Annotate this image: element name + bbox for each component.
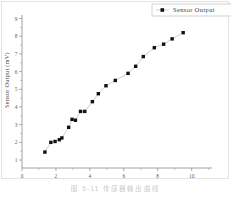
data-point-marker	[91, 100, 94, 103]
data-point-marker	[70, 118, 73, 121]
data-point-marker	[153, 46, 156, 49]
data-point-marker	[60, 136, 63, 139]
data-point-marker	[74, 119, 77, 122]
y-tick-label: 5	[15, 86, 18, 92]
data-point-marker	[79, 110, 82, 113]
data-point-marker	[134, 65, 137, 68]
x-tick-label: 8	[156, 173, 159, 179]
data-point-marker	[104, 84, 107, 87]
y-tick-label: 9	[15, 16, 18, 22]
y-tick-label: 4	[15, 104, 18, 110]
data-point-marker	[114, 79, 117, 82]
x-tick-label: 0	[21, 173, 24, 179]
plot-area: 0246810123456789Sensor Output (mV)Sensor…	[0, 0, 231, 182]
data-point-marker	[67, 126, 70, 129]
y-axis-title: Sensor Output (mV)	[3, 52, 11, 108]
data-point-marker	[97, 92, 100, 95]
data-point-marker	[181, 31, 184, 34]
x-tick-label: 2	[55, 173, 58, 179]
figure-caption: 图 5-11 传感器输出曲线	[0, 183, 231, 193]
data-point-marker	[162, 42, 165, 45]
y-tick-label: 8	[15, 33, 18, 39]
y-tick-label: 7	[15, 51, 18, 57]
y-tick-label: 3	[15, 122, 18, 128]
data-point-marker	[126, 72, 129, 75]
data-point-marker	[49, 141, 52, 144]
data-point-marker	[170, 37, 173, 40]
legend-marker-icon	[161, 8, 165, 12]
data-point-marker	[43, 150, 46, 153]
x-tick-label: 6	[122, 173, 125, 179]
data-point-marker	[83, 110, 86, 113]
data-point-marker	[53, 140, 56, 143]
legend-label: Sensor Output	[173, 6, 215, 13]
data-point-marker	[142, 55, 145, 58]
x-tick-label: 4	[89, 173, 92, 179]
y-tick-label: 6	[15, 69, 18, 75]
y-tick-label: 2	[15, 139, 18, 145]
data-line	[45, 33, 183, 152]
figure-container: 0246810123456789Sensor Output (mV)Sensor…	[0, 0, 231, 197]
x-tick-label: 10	[189, 173, 195, 179]
scatter-chart: 0246810123456789Sensor Output (mV)Sensor…	[0, 0, 231, 182]
y-tick-label: 1	[15, 157, 18, 163]
